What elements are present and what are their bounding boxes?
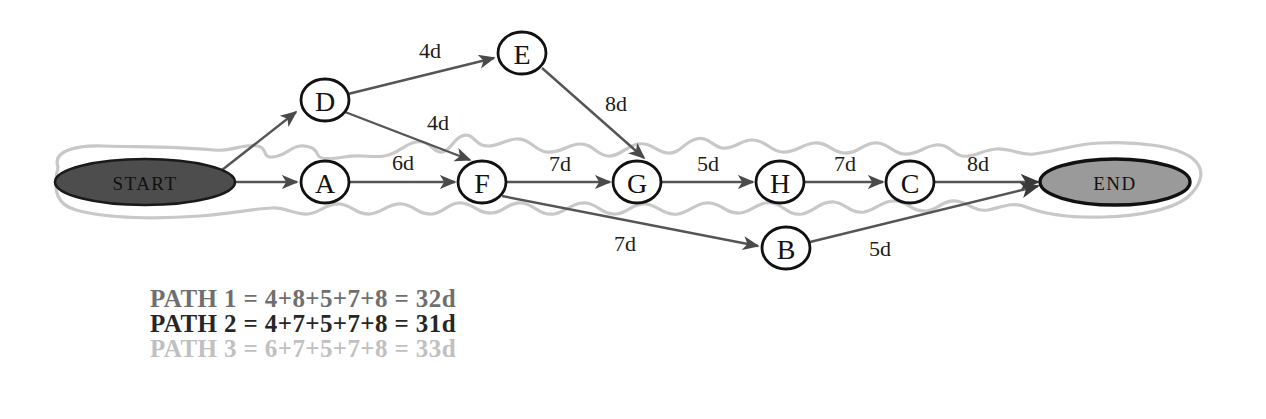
node-D[interactable]: D — [301, 79, 349, 121]
edge-label-b-end: 5d — [869, 236, 891, 261]
node-A-label: A — [315, 168, 336, 199]
end-label: END — [1093, 173, 1137, 194]
start-label: START — [112, 173, 177, 194]
edge-label-e-g: 8d — [605, 91, 627, 116]
node-H[interactable]: H — [756, 161, 804, 203]
edge-label-f-b: 7d — [614, 231, 636, 256]
node-G[interactable]: G — [613, 161, 661, 203]
edge-d-e — [348, 58, 494, 94]
node-F[interactable]: F — [458, 161, 506, 203]
network-diagram-page: START END D E A F G H — [0, 0, 1266, 419]
node-D-label: D — [315, 86, 335, 117]
node-G-label: G — [627, 168, 647, 199]
path-total-3: PATH 3 = 6+7+5+7+8 = 33d — [150, 335, 456, 363]
path-total-2: PATH 2 = 4+7+5+7+8 = 31d — [150, 310, 456, 338]
edge-label-a-f: 6d — [392, 150, 414, 175]
node-H-label: H — [770, 168, 790, 199]
node-A[interactable]: A — [301, 161, 349, 203]
node-C[interactable]: C — [886, 161, 934, 203]
edge-label-d-e: 4d — [419, 38, 441, 63]
node-C-label: C — [901, 168, 920, 199]
edge-label-h-c: 7d — [834, 151, 856, 176]
node-E[interactable]: E — [498, 32, 546, 74]
node-E-label: E — [513, 39, 530, 70]
edge-label-f-g: 7d — [549, 151, 571, 176]
path-total-1: PATH 1 = 4+8+5+7+8 = 32d — [150, 285, 456, 313]
node-start[interactable]: START — [55, 159, 235, 205]
edge-label-g-h: 5d — [697, 151, 719, 176]
node-B-label: B — [777, 234, 796, 265]
edge-e-g — [542, 68, 644, 158]
node-F-label: F — [474, 168, 490, 199]
node-end[interactable]: END — [1040, 159, 1190, 205]
edge-start-d — [222, 112, 296, 170]
edge-label-c-end: 8d — [967, 151, 989, 176]
edge-label-d-f: 4d — [427, 110, 449, 135]
node-B[interactable]: B — [762, 227, 810, 269]
